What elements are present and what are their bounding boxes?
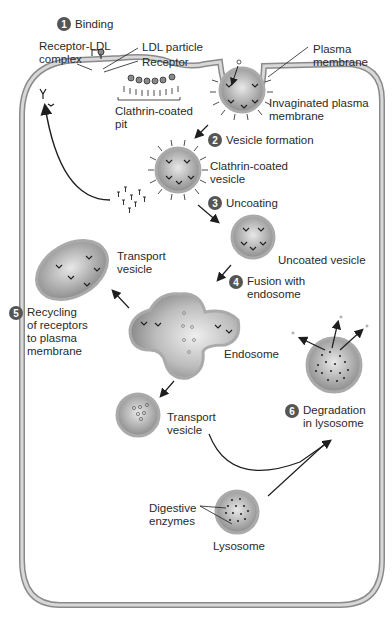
- step-label: Binding: [75, 18, 113, 31]
- label-receptor: Receptor: [142, 56, 189, 69]
- transport-vesicle-round-icon: [117, 394, 159, 436]
- label-digestive-enzymes: Digestive enzymes: [149, 502, 196, 528]
- step-4-fusion: 4 Fusion with endosome: [229, 275, 305, 301]
- label-receptor-ldl-complex: Receptor-LDL complex: [39, 40, 111, 66]
- label-uncoated-vesicle: Uncoated vesicle: [278, 254, 366, 267]
- recycled-receptor-icon: [40, 89, 54, 106]
- clathrin-fragments-icon: [117, 187, 146, 213]
- label-plasma-membrane: Plasma membrane: [313, 43, 368, 69]
- step-5-recycling: 5 Recycling of receptors to plasma membr…: [9, 306, 88, 358]
- transport-vesicle-oval-icon: [26, 228, 118, 311]
- step-badge: 2: [208, 133, 222, 147]
- step-label: Vesicle formation: [226, 134, 314, 147]
- step-label: Uncoating: [226, 197, 278, 210]
- step-label: Degradation in lysosome: [303, 404, 366, 430]
- step-6-degradation: 6 Degradation in lysosome: [285, 404, 366, 430]
- label-invaginated-plasma-membrane: Invaginated plasma membrane: [269, 97, 369, 123]
- degrading-lysosome-icon: [292, 316, 368, 392]
- step-badge: 4: [229, 275, 243, 289]
- label-lysosome: Lysosome: [213, 540, 265, 553]
- step-label: Recycling of receptors to plasma membran…: [27, 306, 88, 358]
- label-clathrin-coated-vesicle: Clathrin-coated vesicle: [210, 160, 288, 186]
- step-badge: 5: [9, 306, 23, 320]
- label-clathrin-coated-pit: Clathrin-coated pit: [115, 105, 193, 131]
- step-label: Fusion with endosome: [247, 275, 305, 301]
- step-badge: 1: [57, 17, 71, 31]
- step-3-uncoating: 3 Uncoating: [208, 196, 278, 210]
- label-transport-vesicle-bottom: Transport vesicle: [167, 411, 216, 437]
- label-ldl-particle: LDL particle: [142, 41, 203, 54]
- step-1-binding: 1 Binding: [57, 17, 113, 31]
- step-2-vesicle-formation: 2 Vesicle formation: [208, 133, 314, 147]
- clathrin-coated-vesicle-icon: [148, 140, 208, 200]
- label-transport-vesicle-top: Transport vesicle: [117, 250, 166, 276]
- step-badge: 3: [208, 196, 222, 210]
- label-endosome: Endosome: [224, 348, 279, 361]
- uncoated-vesicle-icon: [232, 216, 274, 258]
- lysosome-icon: [216, 491, 258, 533]
- clathrin-coated-pit-icon: [118, 74, 180, 100]
- step-badge: 6: [285, 404, 299, 418]
- endosome-icon: [130, 294, 239, 378]
